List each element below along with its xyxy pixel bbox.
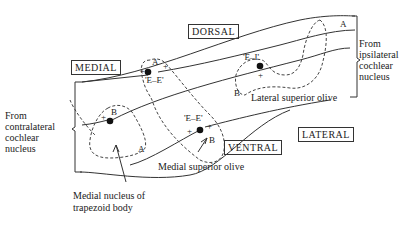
mntb-cell	[107, 118, 114, 125]
lso-type: 'E–I'	[243, 53, 259, 62]
mso-region-b: B	[209, 136, 215, 145]
lso-cell	[257, 63, 264, 70]
ventral-label: VENTRAL	[224, 140, 282, 155]
mso-plus-right: +	[207, 122, 212, 131]
mso-name: Medial superior olive	[158, 161, 244, 172]
mntb-plus: +	[101, 113, 106, 122]
medial-label: MEDIAL	[71, 60, 121, 75]
contra-line-1: From	[5, 110, 55, 121]
lso-name: Lateral superior olive	[251, 92, 337, 103]
mso-upper-region-a: A	[152, 58, 159, 67]
lso-plus: +	[258, 71, 263, 80]
lso-region-a: A	[340, 20, 347, 29]
mntb-region-b: B	[111, 108, 117, 117]
mso-type: 'E–E'	[184, 114, 203, 123]
ipsi-line-4: nucleus	[359, 71, 398, 82]
contra-line-4: nucleus	[5, 143, 55, 154]
mntb-name-line1: Medial nucleus of	[73, 190, 145, 201]
mso-plus-left: +	[187, 127, 192, 136]
lso-region-b: B	[234, 89, 240, 98]
ipsi-line-1: From	[359, 38, 398, 49]
dorsal-label: DORSAL	[188, 24, 239, 39]
contra-line-3: cochlear	[5, 132, 55, 143]
mso-upper-plus-left: +	[140, 67, 145, 76]
mso-cell	[197, 127, 204, 134]
ipsi-line-3: cochlear	[359, 60, 398, 71]
lateral-label: LATERAL	[298, 127, 354, 142]
contra-line-2: contralateral	[5, 121, 55, 132]
contralateral-input-label: From contralateral cochlear nucleus	[5, 110, 55, 154]
mntb-name-line2: trapezoid body	[73, 202, 133, 213]
ipsilateral-input-label: From ipsilateral cochlear nucleus	[359, 38, 398, 82]
ipsi-line-2: ipsilateral	[359, 49, 398, 60]
mso-upper-type: 'E–E'	[145, 76, 164, 85]
mso-upper-plus-right: +	[163, 62, 168, 71]
mntb-region-a: A	[138, 145, 145, 154]
